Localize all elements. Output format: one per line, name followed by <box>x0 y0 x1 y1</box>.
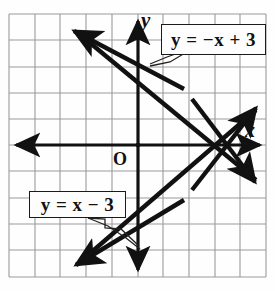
y-axis-label: y <box>141 10 150 31</box>
origin-label: O <box>113 150 127 168</box>
equation-text-line-2: y = x − 3 <box>41 194 115 216</box>
line-y-equals-x-minus-3 <box>76 108 256 265</box>
x-axis-label: x <box>245 120 255 140</box>
equation-callout-line-2: y = x − 3 <box>29 191 126 218</box>
equation-text-line-1: y = −x + 3 <box>171 29 256 51</box>
graph-figure: y x O y = −x + 3 y = x − 3 <box>0 0 275 291</box>
equation-callout-line-1: y = −x + 3 <box>161 24 266 55</box>
